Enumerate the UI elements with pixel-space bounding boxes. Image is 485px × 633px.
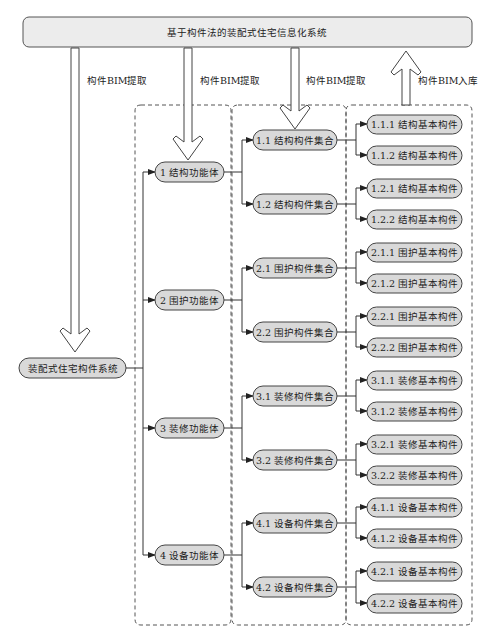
- diagram-canvas: 基于构件法的装配式住宅信息化系统 构件BIM提取 构件BIM提取 构件BIM提取…: [0, 0, 485, 633]
- node-level3-2-2-1: 2.2.1 围护基本构件: [367, 307, 462, 326]
- svg-text:2.2.2 围护基本构件: 2.2.2 围护基本构件: [371, 342, 458, 353]
- node-level2-4-2: 4.2 设备构件集合: [253, 577, 337, 597]
- svg-text:3.1 装修构件集合: 3.1 装修构件集合: [256, 391, 334, 402]
- node-level2-3-1: 3.1 装修构件集合: [253, 386, 337, 406]
- arrow-label-3: 构件BIM提取: [306, 75, 366, 86]
- svg-text:1.2.1 结构基本构件: 1.2.1 结构基本构件: [371, 183, 458, 194]
- node-level1-1: 1 结构功能体: [155, 162, 224, 182]
- svg-text:4.1 设备构件集合: 4.1 设备构件集合: [256, 518, 334, 529]
- node-level2-1-2: 1.2 结构构件集合: [253, 194, 337, 214]
- node-level3-1-2-1: 1.2.1 结构基本构件: [367, 179, 462, 198]
- arrow-label-1: 构件BIM提取: [87, 75, 147, 86]
- node-level3-3-2-1: 3.2.1 装修基本构件: [367, 435, 462, 454]
- svg-text:2.2.1 围护基本构件: 2.2.1 围护基本构件: [371, 311, 458, 322]
- svg-text:4.1.1 设备基本构件: 4.1.1 设备基本构件: [371, 502, 458, 513]
- edges-level1: [224, 140, 253, 587]
- node-level3-4-1-2: 4.1.2 设备基本构件: [367, 529, 462, 548]
- edges-level2: [337, 124, 367, 603]
- node-level3-4-2-2: 4.2.2 设备基本构件: [367, 594, 462, 613]
- svg-text:2 围护功能体: 2 围护功能体: [160, 295, 219, 306]
- svg-text:3.1.2 装修基本构件: 3.1.2 装修基本构件: [371, 406, 458, 417]
- node-level2-2-2: 2.2 围护构件集合: [253, 322, 337, 342]
- svg-text:4.2 设备构件集合: 4.2 设备构件集合: [256, 582, 334, 593]
- node-level3-3-2-2: 3.2.2 装修基本构件: [367, 466, 462, 485]
- svg-text:4.2.1 设备基本构件: 4.2.1 设备基本构件: [371, 566, 458, 577]
- svg-text:1.1.2 结构基本构件: 1.1.2 结构基本构件: [371, 150, 458, 161]
- hollow-arrow-up-4: [391, 51, 421, 105]
- arrow-label-4: 构件BIM入库: [418, 75, 478, 86]
- svg-text:1.2.2 结构基本构件: 1.2.2 结构基本构件: [371, 214, 458, 225]
- svg-text:2.1.1 围护基本构件: 2.1.1 围护基本构件: [371, 247, 458, 258]
- node-level2-1-1: 1.1 结构构件集合: [253, 130, 337, 150]
- svg-text:1.2 结构构件集合: 1.2 结构构件集合: [256, 199, 334, 210]
- node-level3-1-1-1: 1.1.1 结构基本构件: [367, 115, 462, 134]
- node-level3-2-1-2: 2.1.2 围护基本构件: [367, 274, 462, 293]
- node-level3-2-1-1: 2.1.1 围护基本构件: [367, 243, 462, 262]
- svg-text:1 结构功能体: 1 结构功能体: [160, 167, 219, 178]
- hollow-arrow-down-1: [60, 48, 90, 352]
- node-level1-2: 2 围护功能体: [155, 290, 224, 310]
- svg-text:2.2 围护构件集合: 2.2 围护构件集合: [256, 327, 334, 338]
- svg-text:装配式住宅构件系统: 装配式住宅构件系统: [28, 363, 118, 374]
- node-level3-2-2-2: 2.2.2 围护基本构件: [367, 338, 462, 357]
- node-level2-2-1: 2.1 围护构件集合: [253, 258, 337, 278]
- hollow-arrow-down-2: [173, 48, 203, 160]
- svg-text:2.1 围护构件集合: 2.1 围护构件集合: [256, 263, 334, 274]
- group-box-level2: [232, 105, 346, 625]
- svg-text:3 装修功能体: 3 装修功能体: [160, 423, 219, 434]
- svg-text:3.2.2 装修基本构件: 3.2.2 装修基本构件: [371, 470, 458, 481]
- svg-text:1.1 结构构件集合: 1.1 结构构件集合: [256, 135, 334, 146]
- arrow-label-2: 构件BIM提取: [200, 75, 260, 86]
- node-root: 装配式住宅构件系统: [19, 358, 126, 378]
- svg-text:4 设备功能体: 4 设备功能体: [160, 550, 219, 561]
- svg-text:3.1.1 装修基本构件: 3.1.1 装修基本构件: [371, 375, 458, 386]
- edges-root: [126, 172, 155, 555]
- svg-text:4.2.2 设备基本构件: 4.2.2 设备基本构件: [371, 598, 458, 609]
- node-level3-4-2-1: 4.2.1 设备基本构件: [367, 562, 462, 581]
- node-level1-3: 3 装修功能体: [155, 418, 224, 438]
- node-level3-3-1-1: 3.1.1 装修基本构件: [367, 371, 462, 390]
- svg-text:2.1.2 围护基本构件: 2.1.2 围护基本构件: [371, 278, 458, 289]
- node-level1-4: 4 设备功能体: [155, 545, 224, 565]
- node-level2-3-2: 3.2 装修构件集合: [253, 450, 337, 470]
- node-level3-3-1-2: 3.1.2 装修基本构件: [367, 402, 462, 421]
- system-title-bar: 基于构件法的装配式住宅信息化系统: [23, 17, 472, 47]
- svg-text:3.2 装修构件集合: 3.2 装修构件集合: [256, 455, 334, 466]
- svg-text:1.1.1 结构基本构件: 1.1.1 结构基本构件: [371, 119, 458, 130]
- node-level3-1-1-2: 1.1.2 结构基本构件: [367, 146, 462, 165]
- node-level3-1-2-2: 1.2.2 结构基本构件: [367, 210, 462, 229]
- svg-text:3.2.1 装修基本构件: 3.2.1 装修基本构件: [371, 439, 458, 450]
- node-level3-4-1-1: 4.1.1 设备基本构件: [367, 498, 462, 517]
- hollow-arrow-down-3: [280, 48, 310, 129]
- system-title: 基于构件法的装配式住宅信息化系统: [167, 27, 327, 38]
- node-level2-4-1: 4.1 设备构件集合: [253, 513, 337, 533]
- svg-text:4.1.2 设备基本构件: 4.1.2 设备基本构件: [371, 533, 458, 544]
